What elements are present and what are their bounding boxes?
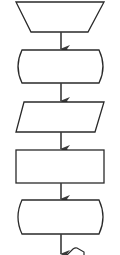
terminal-node-1 bbox=[18, 50, 103, 83]
trapezoid-node bbox=[16, 2, 104, 32]
process-rectangle-node bbox=[16, 150, 104, 183]
flowchart-canvas bbox=[0, 0, 120, 255]
partial-hexagon-node bbox=[66, 248, 84, 255]
terminal-node-2 bbox=[18, 200, 103, 234]
parallelogram-node bbox=[16, 102, 104, 132]
